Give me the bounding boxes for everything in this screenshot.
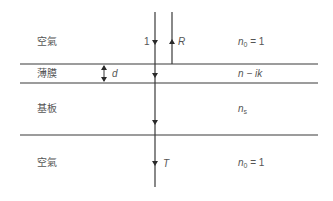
arrow-down-icon <box>152 40 158 45</box>
index-value: = 1 <box>247 157 264 168</box>
index-value: = 1 <box>247 36 264 47</box>
incident-label: 1 <box>144 37 150 47</box>
index-air-bottom: n0 = 1 <box>238 158 264 169</box>
arrow-down-icon <box>101 77 107 82</box>
index-subscript: s <box>244 108 248 115</box>
thickness-label: d <box>112 69 118 79</box>
arrow-up-icon <box>101 65 107 70</box>
arrow-up-icon <box>169 39 175 44</box>
arrow-down-icon <box>152 73 158 78</box>
diagram-lines <box>0 0 333 201</box>
arrow-down-icon <box>152 120 158 125</box>
index-substrate: ns <box>238 104 247 115</box>
layer-label-air-top: 空氣 <box>37 37 57 47</box>
transmitted-label: T <box>163 159 169 169</box>
thin-film-diagram: 空氣 薄膜 基板 空氣 1 R T d n0 = 1 n − ik ns n0 … <box>0 0 333 201</box>
layer-label-film: 薄膜 <box>37 69 57 79</box>
index-air-top: n0 = 1 <box>238 37 264 48</box>
layer-label-substrate: 基板 <box>37 104 57 114</box>
layer-label-air-bottom: 空氣 <box>37 158 57 168</box>
index-film: n − ik <box>238 69 262 79</box>
reflected-label: R <box>178 37 185 47</box>
arrow-down-icon <box>152 161 158 166</box>
